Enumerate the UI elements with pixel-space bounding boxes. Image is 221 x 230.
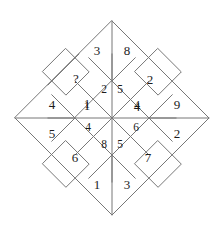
- cell-outer-left-lower: 5: [49, 127, 56, 140]
- cell-middle-lower-right: 7: [145, 151, 152, 164]
- cell-inner-left-upper: 1: [84, 99, 90, 111]
- cell-outer-top-right: 8: [124, 44, 131, 57]
- cell-outer-bottom-right: 3: [124, 178, 131, 191]
- link-e-ne: [149, 95, 172, 118]
- cell-inner-right-upper: 4: [134, 100, 140, 112]
- cell-outer-top-left: 3: [94, 44, 101, 57]
- link-n-ne: [112, 58, 135, 81]
- cell-inner-bottom-right: 5: [117, 139, 123, 151]
- link-s-sw: [89, 155, 112, 178]
- link-e-se: [149, 118, 172, 141]
- puzzle-figure: 38?2491425144685526713: [0, 0, 221, 230]
- link-w-sw: [52, 118, 75, 141]
- cell-outer-bottom-left: 1: [94, 178, 101, 191]
- cell-inner-top-left: 2: [101, 84, 107, 96]
- cell-inner-bottom-left: 8: [101, 139, 107, 151]
- cell-middle-upper-right: 2: [147, 73, 154, 86]
- cell-outer-left-upper: 4: [49, 98, 56, 111]
- link-n-nw: [89, 58, 112, 81]
- cell-outer-right-upper: 9: [174, 98, 181, 111]
- cell-inner-left-lower: 4: [85, 122, 91, 134]
- cell-middle-upper-left: ?: [73, 72, 79, 85]
- cell-inner-top-right: 5: [117, 84, 123, 96]
- puzzle-diagram-svg: [0, 0, 221, 230]
- link-s-se: [112, 155, 135, 178]
- cell-inner-right-lower: 6: [133, 122, 139, 134]
- cell-middle-lower-left: 6: [72, 151, 79, 164]
- cell-outer-right-lower: 2: [174, 127, 181, 140]
